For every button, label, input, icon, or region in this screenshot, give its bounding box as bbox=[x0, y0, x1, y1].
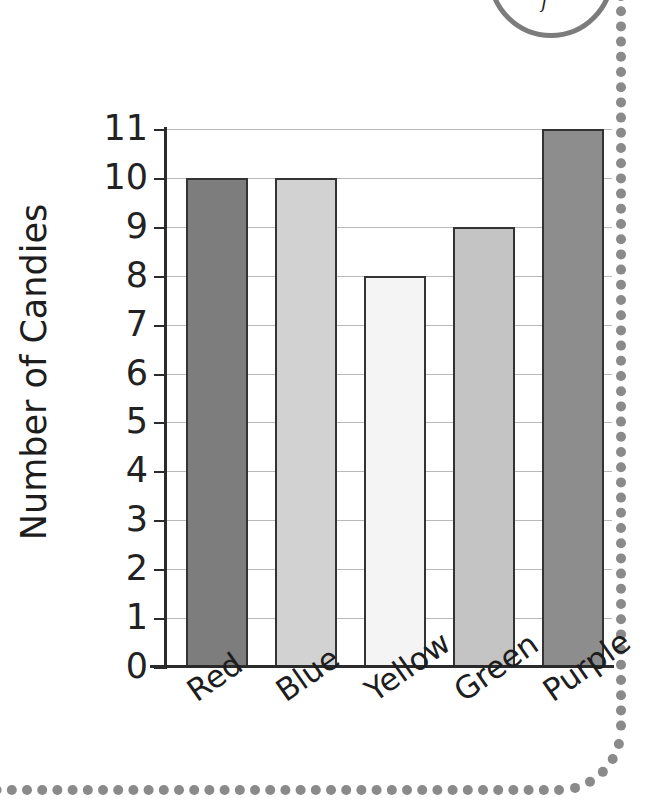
y-tick-label: 7 bbox=[88, 307, 148, 342]
y-axis-tick bbox=[154, 178, 166, 180]
y-tick-label: 4 bbox=[88, 453, 148, 488]
y-axis-tick bbox=[154, 374, 166, 376]
y-tick-label: 2 bbox=[88, 551, 148, 586]
y-tick-label: 10 bbox=[88, 160, 148, 195]
y-tick-label: 8 bbox=[88, 258, 148, 293]
bar-blue bbox=[275, 178, 337, 667]
y-tick-label: 1 bbox=[88, 600, 148, 635]
y-axis-tick bbox=[154, 422, 166, 424]
bar-yellow bbox=[364, 276, 426, 667]
chart-page: f 11109876543210 RedBlueYellowGreenPurpl… bbox=[0, 0, 652, 811]
y-tick-label: 11 bbox=[88, 111, 148, 146]
y-axis-tick bbox=[154, 569, 166, 571]
y-tick-label: 9 bbox=[88, 209, 148, 244]
y-tick-labels: 11109876543210 bbox=[88, 0, 148, 811]
y-axis-tick bbox=[154, 471, 166, 473]
y-axis-tick bbox=[154, 129, 166, 131]
y-axis-title: Number of Candies bbox=[14, 92, 54, 652]
y-axis-tick bbox=[154, 618, 166, 620]
plot-area bbox=[166, 129, 612, 667]
y-axis-tick bbox=[154, 276, 166, 278]
bar-chart: 11109876543210 RedBlueYellowGreenPurple … bbox=[0, 0, 652, 811]
y-tick-label: 5 bbox=[88, 404, 148, 439]
y-axis-tick bbox=[154, 227, 166, 229]
y-tick-label: 0 bbox=[88, 649, 148, 684]
bar-green bbox=[453, 227, 515, 667]
y-tick-label: 3 bbox=[88, 502, 148, 537]
y-tick-label: 6 bbox=[88, 356, 148, 391]
y-axis-tick bbox=[154, 667, 166, 669]
bar-purple bbox=[542, 129, 604, 667]
y-axis-tick bbox=[154, 520, 166, 522]
y-axis-line bbox=[164, 127, 167, 669]
y-axis-tick bbox=[154, 325, 166, 327]
bar-red bbox=[186, 178, 248, 667]
